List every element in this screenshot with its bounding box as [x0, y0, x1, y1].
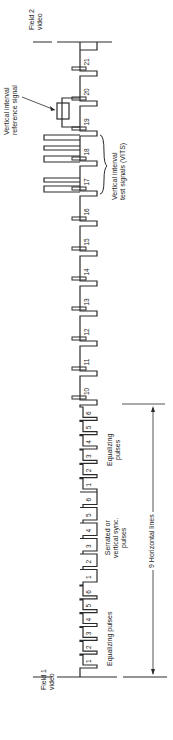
horizontal-lines-label: 9 Horizontal lines: [148, 512, 155, 570]
vir-line1: Vertical interval: [3, 85, 11, 135]
vits-line1: Vertical interval: [111, 143, 119, 200]
vir-label: Vertical interval reference signal: [3, 85, 19, 135]
serrated-line2: vertical sync.: [112, 518, 120, 558]
serrated-line3: pulses: [120, 518, 128, 558]
equalizing-pulses-1-label: Equalizing pulses: [106, 612, 113, 666]
equalizing2-line2: pulses: [114, 434, 122, 466]
field2-label: Field 2 video: [28, 9, 44, 30]
field1-line1: Field 1: [40, 669, 48, 690]
serrated-line1: Serrated or: [104, 518, 112, 558]
vertical-blanking-diagram: 1234561234561234561011121314151617181920…: [0, 0, 173, 740]
vir-line2: reference signal: [11, 85, 19, 135]
vits-label: Vertical interval test signals (VITS): [111, 143, 127, 200]
field2-line2: video: [36, 9, 44, 30]
serrated-pulses-label: Serrated or vertical sync. pulses: [104, 518, 128, 558]
vits-line2: test signals (VITS): [119, 143, 127, 200]
field1-line2: video: [48, 669, 56, 690]
equalizing-pulses-2-label: Equalizing pulses: [106, 434, 122, 466]
field2-line1: Field 2: [28, 9, 36, 30]
field1-label: Field 1 video: [40, 669, 56, 690]
equalizing2-line1: Equalizing: [106, 434, 114, 466]
